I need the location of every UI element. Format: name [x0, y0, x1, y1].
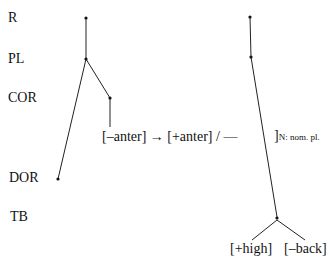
feature-high: [+high] — [230, 241, 272, 257]
context-subscript: N: nom. pl. — [279, 132, 320, 142]
place-node-right — [249, 55, 252, 58]
tongue-body-node — [275, 216, 278, 219]
place-node-left — [84, 57, 87, 60]
feature-back: [–back] — [284, 241, 327, 257]
root-node-right — [248, 15, 251, 18]
root-node-left — [84, 16, 87, 19]
context-bracket: ]N: nom. pl. — [274, 128, 320, 145]
dorsal-node — [56, 177, 59, 180]
rule-text: [–anter] → [+anter] / — — [102, 129, 237, 145]
coronal-node — [108, 96, 111, 99]
